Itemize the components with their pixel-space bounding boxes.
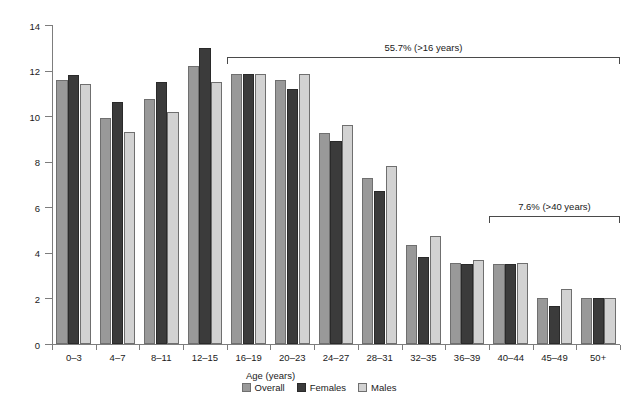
bar-overall [56,80,67,344]
bar-males [561,289,572,344]
x-axis-tick [533,345,534,350]
bar-females [112,102,123,344]
x-axis-tick [445,345,446,350]
x-axis-tick [402,345,403,350]
annotation-bracket [227,57,619,64]
y-axis-tick-label: 12 [29,66,40,77]
bar-overall [188,66,199,344]
legend-item-label: Overall [255,382,285,393]
bar-overall [581,298,592,344]
x-axis-tick-label: 16–19 [235,352,261,363]
bar-overall [406,245,417,344]
bar-males [255,74,266,344]
x-axis-tick [358,345,359,350]
x-axis-tick [270,345,271,350]
bar-overall [231,74,242,344]
bar-males [80,84,91,344]
bar-males [299,74,310,344]
x-axis-tick [139,345,140,350]
x-axis-tick-label: 45–49 [541,352,567,363]
legend-swatch-icon [242,383,251,392]
x-axis-tick-label: 24–27 [323,352,349,363]
x-axis-tick [489,345,490,350]
x-axis-tick-label: 32–35 [410,352,436,363]
bar-overall [319,133,330,344]
bar-males [517,263,528,344]
y-axis-tick: 2 [45,298,52,299]
x-axis-tick [96,345,97,350]
x-axis-tick-label: 4–7 [110,352,126,363]
x-axis-tick [576,345,577,350]
legend-item-label: Males [371,382,396,393]
y-axis-tick-label: 6 [35,202,40,213]
x-axis-line [52,344,620,345]
legend-swatch-icon [297,383,306,392]
bar-overall [450,263,461,344]
x-axis-tick-label: 8–11 [151,352,171,363]
x-axis-tick-label: 36–39 [454,352,480,363]
bar-overall [362,178,373,344]
y-axis-tick: 10 [45,116,52,117]
legend: OverallFemalesMales [0,382,638,393]
legend-item-females: Females [297,382,346,393]
bar-females [461,264,472,344]
y-axis-tick: 14 [45,25,52,26]
bar-males [430,236,441,344]
bar-females [287,89,298,344]
bar-males [167,112,178,344]
x-axis-tick [314,345,315,350]
annotation-label: 55.7% (>16 years) [384,42,462,53]
legend-item-overall: Overall [242,382,285,393]
annotation-label: 7.6% (>40 years) [518,201,591,212]
bar-females [549,306,560,344]
bar-females [68,75,79,344]
y-axis-tick: 8 [45,162,52,163]
y-axis-tick-label: 4 [35,248,40,259]
bar-males [604,298,615,344]
legend-swatch-icon [358,383,367,392]
bar-males [211,82,222,344]
bar-overall [100,118,111,344]
y-axis-tick: 12 [45,71,52,72]
bar-females [505,264,516,344]
y-axis-tick: 0 [45,344,52,345]
x-axis-tick-label: 50+ [590,352,606,363]
bar-females [418,257,429,344]
y-axis-tick-label: 0 [35,339,40,350]
x-axis-tick-label: 28–31 [366,352,392,363]
annotation-bracket [489,216,619,223]
bar-overall [493,264,504,344]
legend-item-males: Males [358,382,396,393]
x-axis-label: Age (years) [246,370,295,381]
x-axis-tick [183,345,184,350]
bar-overall [275,80,286,344]
bar-overall [144,99,155,344]
legend-item-label: Females [310,382,346,393]
y-axis-tick-label: 8 [35,157,40,168]
x-axis-tick-label: 40–44 [498,352,524,363]
bar-females [374,191,385,344]
bar-females [199,48,210,344]
x-axis-tick-label: 0–3 [66,352,82,363]
bar-females [330,141,341,344]
bar-overall [537,298,548,344]
bar-chart: 02468101214 0–34–78–1112–1516–1920–2324–… [0,0,638,411]
bar-females [243,74,254,344]
x-axis-tick [52,345,53,350]
x-axis-tick [620,345,621,350]
bar-females [156,82,167,344]
bar-males [386,166,397,344]
y-axis-tick-label: 14 [29,20,40,31]
plot-area [52,25,620,344]
x-axis-tick-label: 20–23 [279,352,305,363]
bar-females [593,298,604,344]
y-axis-tick-label: 2 [35,293,40,304]
x-axis-tick-label: 12–15 [192,352,218,363]
y-axis-tick-label: 10 [29,111,40,122]
x-axis-tick [227,345,228,350]
y-axis-tick: 4 [45,253,52,254]
bar-males [124,132,135,344]
bar-males [473,260,484,344]
bar-males [342,125,353,344]
y-axis-tick: 6 [45,207,52,208]
